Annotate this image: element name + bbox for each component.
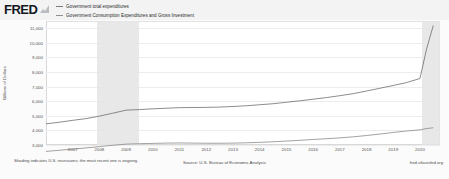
- legend-item[interactable]: Government Consumption Expenditures and …: [56, 11, 194, 19]
- y-axis-tick-label: 10,000: [30, 40, 43, 45]
- x-axis-tick-label: 2014: [255, 147, 265, 152]
- legend-label-series-2: Government Consumption Expenditures and …: [66, 13, 194, 18]
- x-axis-tick-label: 2016: [308, 147, 318, 152]
- legend-label-series-1: Government total expenditures: [66, 4, 129, 9]
- series-lines: [46, 21, 440, 145]
- y-axis-tick-labels: 3,0004,0005,0006,0007,0008,0009,00010,00…: [0, 21, 43, 145]
- chart-header: FRED Government total expenditures Gover…: [0, 0, 449, 20]
- chart-glyph-icon: [40, 5, 49, 13]
- y-axis-tick-label: 6,000: [32, 99, 43, 104]
- legend-swatch-series-1: [56, 6, 63, 7]
- x-axis-tick-label: 2013: [228, 147, 238, 152]
- legend-item[interactable]: Government total expenditures: [56, 2, 194, 10]
- x-axis-tick-label: 2012: [201, 147, 211, 152]
- x-axis-tick-label: 2017: [335, 147, 345, 152]
- x-axis-tick-label: 2007: [68, 147, 78, 152]
- x-axis-tick-labels: 2007200820092010201120122013201420152016…: [46, 147, 440, 155]
- x-axis-tick-label: 2010: [148, 147, 158, 152]
- x-axis-tick-label: 2018: [362, 147, 372, 152]
- y-axis-tick-label: 5,000: [32, 113, 43, 118]
- y-axis-tick-label: 7,000: [32, 84, 43, 89]
- chart-legend: Government total expenditures Government…: [56, 2, 194, 20]
- series-line-1: [46, 25, 433, 123]
- x-axis-tick-label: 2020: [415, 147, 425, 152]
- fred-attribution[interactable]: fred.stlouisfed.org: [410, 160, 443, 165]
- x-axis-tick-label: 2019: [388, 147, 398, 152]
- x-axis-tick-label: 2015: [282, 147, 292, 152]
- y-axis-tick-label: 9,000: [32, 55, 43, 60]
- legend-swatch-series-2: [56, 15, 63, 16]
- fred-chart-screenshot: FRED Government total expenditures Gover…: [0, 0, 449, 179]
- y-axis-tick-label: 8,000: [32, 70, 43, 75]
- plot-area: [46, 21, 440, 145]
- y-axis-tick-label: 11,000: [30, 26, 43, 31]
- fred-logo[interactable]: FRED: [4, 3, 37, 16]
- x-axis-tick-label: 2009: [121, 147, 131, 152]
- x-axis-tick-label: 2011: [175, 147, 184, 152]
- source-note: Source: U.S. Bureau of Economic Analysis: [0, 160, 449, 165]
- y-axis-tick-label: 4,000: [32, 128, 43, 133]
- y-axis-tick-label: 3,000: [32, 143, 43, 148]
- x-axis-tick-label: 2008: [95, 147, 105, 152]
